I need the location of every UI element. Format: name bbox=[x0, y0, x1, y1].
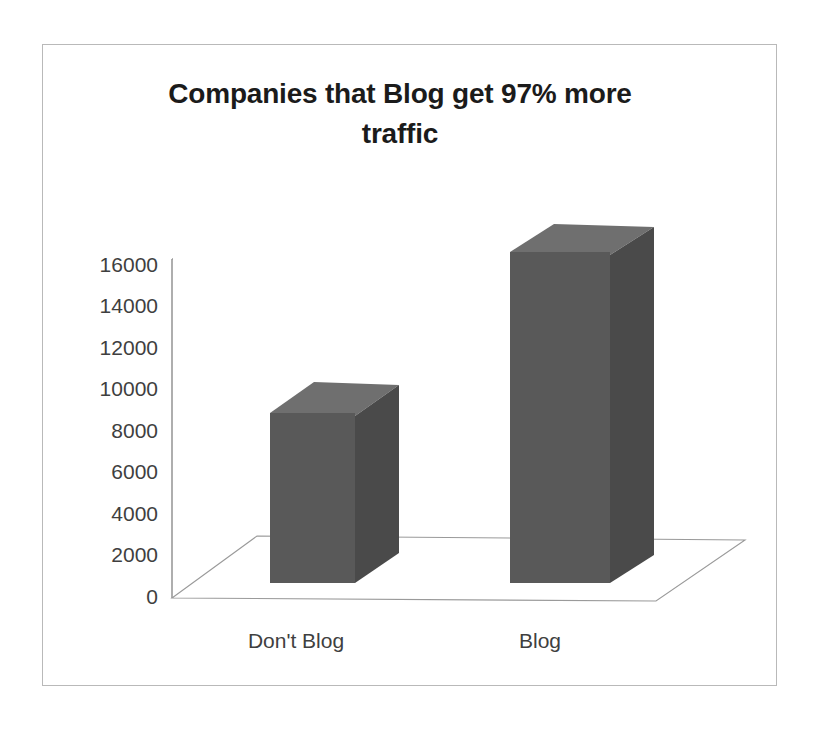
y-tick-label: 2000 bbox=[111, 543, 158, 566]
y-tick-label: 14000 bbox=[100, 294, 158, 317]
y-tick-label: 16000 bbox=[100, 253, 158, 276]
plot-area: 16000 14000 12000 10000 8000 6000 4000 2… bbox=[0, 0, 822, 736]
y-tick-label: 6000 bbox=[111, 460, 158, 483]
bar-blog-front-face bbox=[510, 252, 610, 583]
x-tick-label-dont-blog: Don't Blog bbox=[248, 629, 344, 652]
bar-blog-side-face bbox=[610, 227, 654, 583]
y-tick-label: 12000 bbox=[100, 336, 158, 359]
x-axis-category-labels: Don't Blog Blog bbox=[248, 629, 561, 652]
bar-dont-blog-front-face bbox=[270, 413, 355, 583]
x-tick-label-blog: Blog bbox=[519, 629, 561, 652]
y-tick-label: 4000 bbox=[111, 502, 158, 525]
y-tick-label: 0 bbox=[146, 585, 158, 608]
bar-dont-blog[interactable] bbox=[270, 382, 399, 583]
y-axis bbox=[172, 259, 173, 598]
y-axis-tick-labels: 16000 14000 12000 10000 8000 6000 4000 2… bbox=[100, 253, 158, 608]
bar-blog[interactable] bbox=[510, 224, 654, 583]
floor-plane bbox=[172, 536, 745, 601]
bar-dont-blog-side-face bbox=[355, 385, 399, 583]
y-tick-label: 10000 bbox=[100, 377, 158, 400]
y-tick-label: 8000 bbox=[111, 419, 158, 442]
